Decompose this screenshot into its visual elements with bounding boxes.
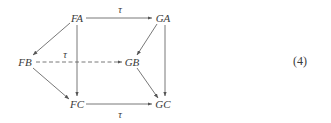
arrow-fb-fc bbox=[33, 68, 69, 99]
arrow-gb-gc bbox=[137, 68, 158, 98]
equation-number: (4) bbox=[293, 54, 307, 69]
node-fa: FA bbox=[71, 12, 83, 24]
edge-label-top-tau: τ bbox=[118, 4, 122, 15]
node-gb: GB bbox=[125, 56, 140, 68]
node-ga: GA bbox=[156, 12, 171, 24]
edge-label-bottom-tau: τ bbox=[118, 109, 122, 120]
edge-label-middle-tau: τ bbox=[63, 49, 67, 60]
node-fb: FB bbox=[18, 56, 31, 68]
node-fc: FC bbox=[70, 98, 84, 110]
node-gc: GC bbox=[155, 98, 170, 110]
commutative-diagram: FA GA FB GB FC GC τ τ τ (4) bbox=[0, 0, 331, 123]
arrow-ga-gb bbox=[137, 24, 157, 55]
